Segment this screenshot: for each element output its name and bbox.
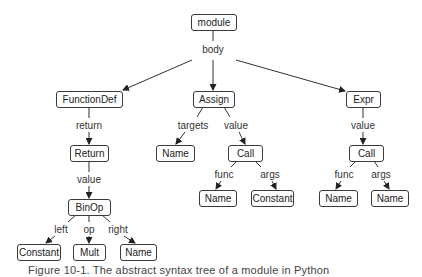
edge-label-expr-call-func: func bbox=[335, 169, 354, 180]
edge-func-label-to-assign-call-func-name bbox=[216, 181, 221, 189]
node-binop: BinOp bbox=[69, 200, 111, 216]
node-expr: Expr bbox=[347, 92, 381, 108]
edge-label-return-value: value bbox=[77, 174, 101, 185]
node-label: Name bbox=[162, 148, 189, 159]
node-label: Expr bbox=[353, 94, 374, 105]
node-label: Return bbox=[74, 148, 104, 159]
node-expr-call: Call bbox=[350, 146, 384, 162]
node-expr-call-func-name: Name bbox=[320, 191, 358, 207]
node-label: Call bbox=[358, 148, 375, 159]
node-label: Name bbox=[205, 193, 232, 204]
edge-func-label-to-expr-call-func-name bbox=[336, 181, 341, 189]
node-label: Mult bbox=[80, 247, 99, 258]
node-label: FunctionDef bbox=[63, 94, 117, 105]
edge-label-expr-call-args: args bbox=[371, 169, 390, 180]
node-binop-right-name: Name bbox=[121, 245, 157, 261]
node-label: Call bbox=[237, 148, 254, 159]
figure-caption: Figure 10-1. The abstract syntax tree of… bbox=[28, 264, 329, 276]
edge-label-right: right bbox=[108, 224, 128, 235]
node-binop-left-constant: Constant bbox=[18, 245, 61, 261]
edge-assign-value-label-to-assign-call bbox=[239, 132, 245, 144]
node-label: Constant bbox=[252, 193, 292, 204]
edge-assign-to-assign-value-label bbox=[224, 107, 230, 117]
node-return: Return bbox=[71, 146, 109, 162]
node-assign: Assign bbox=[194, 92, 235, 108]
edge-assign-to-targets-label bbox=[197, 107, 203, 117]
node-label: BinOp bbox=[76, 202, 104, 213]
edge-label-op: op bbox=[83, 224, 95, 235]
node-assign-target-name: Name bbox=[157, 146, 195, 162]
edge-label-targets: targets bbox=[178, 120, 209, 131]
node-binop-op-mult: Mult bbox=[74, 245, 106, 261]
edge-label-expr-value: value bbox=[351, 120, 375, 131]
edge-right-label-to-binop-right-name bbox=[124, 236, 135, 243]
node-assign-call-args-constant: Constant bbox=[252, 191, 294, 207]
node-label: Name bbox=[325, 193, 352, 204]
edge-binop-to-right-label bbox=[102, 215, 110, 222]
edge-body-label-to-expr bbox=[236, 60, 345, 91]
edge-label-assign-value: value bbox=[224, 120, 248, 131]
node-functiondef: FunctionDef bbox=[57, 92, 123, 108]
edge-label-body: body bbox=[202, 44, 224, 55]
edge-left-label-to-binop-left-constant bbox=[46, 236, 55, 243]
ast-diagram: bodyreturntargetsvaluevaluevaluefuncargs… bbox=[0, 0, 422, 277]
node-assign-call-func-name: Name bbox=[200, 191, 237, 207]
edge-label-return: return bbox=[76, 120, 102, 131]
edge-label-assign-call-args: args bbox=[260, 169, 279, 180]
edge-args-label-to-assign-call-args-constant bbox=[272, 181, 276, 189]
node-assign-call: Call bbox=[229, 146, 263, 162]
node-label: Name bbox=[377, 193, 404, 204]
edge-label-assign-call-func: func bbox=[215, 169, 234, 180]
node-label: Assign bbox=[199, 94, 229, 105]
edge-targets-label-to-assign-target-name bbox=[176, 132, 185, 144]
edge-args-label-to-expr-call-args-name bbox=[384, 181, 389, 189]
edge-label-left: left bbox=[54, 224, 68, 235]
node-expr-call-args-name: Name bbox=[372, 191, 409, 207]
node-label: Constant bbox=[19, 247, 59, 258]
edge-body-label-to-functiondef bbox=[123, 60, 192, 90]
node-module: module bbox=[192, 15, 237, 31]
edge-binop-to-left-label bbox=[68, 215, 76, 222]
node-label: module bbox=[198, 17, 231, 28]
node-label: Name bbox=[125, 247, 152, 258]
